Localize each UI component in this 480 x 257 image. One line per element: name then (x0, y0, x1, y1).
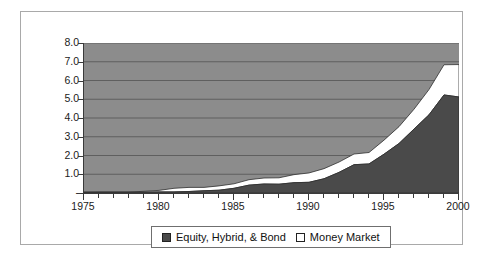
y-axis-tick-label: 1.0 (23, 168, 79, 179)
x-axis-tick-mark (113, 194, 114, 198)
y-axis-tick-label: 6.0 (23, 75, 79, 86)
y-axis-tick-label: 8.0 (23, 37, 79, 48)
x-axis-tick-mark (188, 194, 189, 198)
x-axis-tick-mark (263, 194, 264, 198)
x-axis-tick-mark (323, 194, 324, 198)
legend-item-equity-hybrid-bond: Equity, Hybrid, & Bond (162, 231, 286, 243)
x-axis-tick-mark (353, 194, 354, 198)
x-axis-tick-mark (338, 194, 339, 198)
hollow-square-icon (296, 233, 305, 242)
filled-square-icon (162, 233, 171, 242)
x-axis-tick-mark (368, 194, 369, 198)
x-axis-tick-label: 1975 (61, 200, 105, 212)
x-axis-tick-label: 1995 (361, 200, 405, 212)
x-axis-tick-label: 1980 (136, 200, 180, 212)
x-axis-tick-mark (128, 194, 129, 198)
x-axis-tick-mark (413, 194, 414, 198)
area-chart-svg (84, 43, 459, 193)
legend-label-money-market: Money Market (310, 231, 380, 243)
plot-area (83, 43, 459, 194)
x-axis-tick-mark (278, 194, 279, 198)
y-axis-tick-label: 3.0 (23, 131, 79, 142)
legend-label-equity-hybrid-bond: Equity, Hybrid, & Bond (176, 231, 286, 243)
x-axis-tick-mark (203, 194, 204, 198)
x-axis-tick-label: 1990 (286, 200, 330, 212)
y-axis-tick-label: 4.0 (23, 112, 79, 123)
x-axis-tick-mark (443, 194, 444, 198)
x-axis-tick-mark (293, 194, 294, 198)
y-axis: 8.07.06.05.04.03.02.01.0- (21, 12, 79, 257)
chart-legend: Equity, Hybrid, & Bond Money Market (151, 226, 391, 248)
x-axis-tick-label: 1985 (211, 200, 255, 212)
y-axis-tick-label: 5.0 (23, 93, 79, 104)
x-axis-tick-mark (248, 194, 249, 198)
x-axis-tick-mark (98, 194, 99, 198)
y-axis-tick-label: 2.0 (23, 150, 79, 161)
x-axis-tick-mark (173, 194, 174, 198)
x-axis-tick-mark (398, 194, 399, 198)
x-axis-tick-mark (428, 194, 429, 198)
y-axis-tick-label: 7.0 (23, 56, 79, 67)
x-axis-tick-mark (143, 194, 144, 198)
figure-frame: 8.07.06.05.04.03.02.01.0- 19751980198519… (20, 11, 463, 245)
x-axis-tick-mark (218, 194, 219, 198)
y-axis-tick-label: - (23, 187, 79, 198)
x-axis-tick-label: 2000 (436, 200, 480, 212)
legend-item-money-market: Money Market (296, 231, 380, 243)
chart-screenshot: 8.07.06.05.04.03.02.01.0- 19751980198519… (0, 0, 480, 257)
